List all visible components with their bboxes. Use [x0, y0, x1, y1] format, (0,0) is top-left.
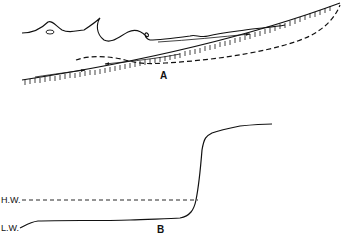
high-water-label: H.W.	[1, 196, 21, 205]
panel-b-drawing	[20, 124, 272, 228]
backwash-arrow	[105, 54, 180, 64]
beach-slope-line	[22, 3, 340, 80]
beach-profile-line	[20, 124, 272, 228]
panel-a-label: A	[160, 71, 167, 81]
panel-a-drawing	[22, 3, 340, 85]
low-water-label: L.W.	[1, 224, 19, 233]
panel-b-label: B	[157, 225, 164, 235]
wave-surface	[22, 18, 285, 41]
eddy-swirl	[46, 30, 54, 34]
diagram-canvas	[0, 0, 346, 240]
dashed-profile-line	[76, 5, 340, 64]
